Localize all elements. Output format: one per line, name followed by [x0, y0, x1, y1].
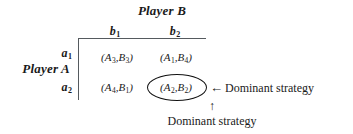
column-header-b1-label: b	[110, 24, 116, 38]
column-player-title: Player B	[112, 3, 212, 19]
row-header-a1-label: a	[62, 46, 68, 60]
row-header-a1: a1	[52, 46, 72, 61]
equilibrium-highlight-ellipse	[147, 74, 207, 101]
payoff-close-paren: )	[129, 81, 133, 93]
payoff-close-paren: )	[129, 51, 133, 63]
row-dominant-strategy-annotation: ←Dominant strategy	[210, 80, 314, 96]
row-player-title: Player A	[4, 61, 70, 77]
column-header-b2-label: b	[170, 24, 176, 38]
column-header-b2: b2	[155, 24, 195, 39]
row-header-a2-subscript: 2	[68, 86, 73, 95]
row-header-a2: a2	[52, 80, 72, 95]
arrow-up-icon: ↑	[138, 100, 286, 112]
payoff-matrix-diagram: Player B b1 b2 Player A a1 a2 (A3,B3) (A…	[0, 0, 353, 134]
payoff-cell-a2-b1: (A4,B1)	[84, 81, 150, 95]
arrow-left-icon: ←	[210, 80, 225, 95]
payoff-cell-a1-b1: (A3,B3)	[84, 51, 150, 65]
payoff-cell-a1-b2: (A1,B4)	[143, 51, 209, 65]
column-dominant-strategy-label: Dominant strategy	[138, 114, 286, 129]
matrix-left-rule	[78, 38, 79, 100]
column-header-b1: b1	[95, 24, 135, 39]
row-header-a2-label: a	[62, 80, 68, 94]
row-header-a1-subscript: 1	[68, 52, 73, 61]
payoff-close-paren: )	[188, 51, 192, 63]
matrix-top-rule	[78, 38, 206, 39]
row-dominant-strategy-label: Dominant strategy	[225, 81, 314, 95]
